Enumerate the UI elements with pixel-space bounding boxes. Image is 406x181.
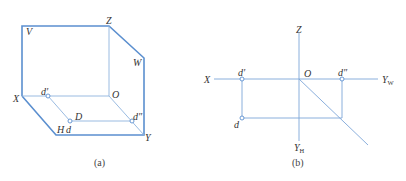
45-degree-line [299, 79, 368, 145]
label-y-h-sub: H [300, 147, 305, 154]
label-D: D [74, 111, 83, 122]
figure-b: Z X d′ O d″ YW d YH (b) [203, 24, 395, 169]
projection-line-dprime-d [48, 96, 70, 121]
label-y-a: Y [145, 132, 152, 143]
v-plane-outline [22, 26, 144, 135]
label-o-b: O [304, 68, 311, 79]
label-w-plane: W [133, 57, 143, 68]
label-x-b: X [203, 74, 211, 85]
label-z-a: Z [106, 15, 112, 26]
label-d-prime-b: d′ [238, 67, 246, 78]
label-d-prime-a: d′ [41, 86, 49, 97]
point-d-b [240, 116, 244, 120]
caption-b: (b) [292, 157, 304, 169]
label-d-b: d [234, 119, 240, 130]
point-d-a [68, 119, 72, 123]
caption-a: (a) [94, 157, 105, 169]
label-h-plane: H [56, 124, 65, 135]
label-y-w: YW [382, 74, 395, 86]
projection-diagram: V Z W X d′ O D d″ H d Y (a) Z X d′ O d″ … [0, 0, 406, 181]
label-v-plane: V [26, 26, 34, 37]
label-d-a: d [66, 124, 72, 135]
label-d-double-prime-b: d″ [338, 67, 348, 78]
label-z-b: Z [296, 24, 302, 35]
label-d-double-prime-a: d″ [133, 111, 143, 122]
label-x-a: X [12, 93, 20, 104]
figure-a: V Z W X d′ O D d″ H d Y (a) [12, 15, 152, 169]
label-o-a: O [112, 89, 119, 100]
label-y-h: YH [294, 142, 305, 154]
label-y-w-sub: W [388, 79, 395, 86]
